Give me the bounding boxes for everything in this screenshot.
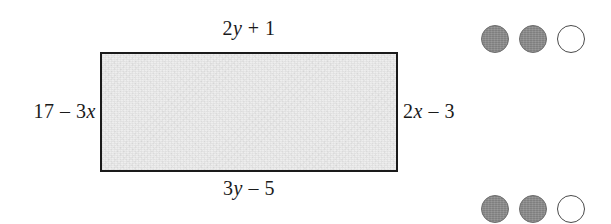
side-label-left: 17 – 3x — [16, 101, 96, 121]
side-label-top-coefficient: 2 — [222, 17, 233, 39]
side-label-left-coefficient: 3 — [76, 100, 87, 122]
side-label-top: 2y + 1 — [100, 18, 398, 38]
side-label-bottom-constant: 5 — [264, 177, 275, 199]
figure-page: 2y + 1 3y – 5 17 – 3x 2x – 3 — [0, 0, 611, 224]
side-label-bottom-variable: y — [234, 177, 243, 199]
bottom-indicator-group — [481, 195, 585, 223]
indicator-dot-empty — [557, 195, 585, 223]
side-label-left-operator: – — [60, 100, 71, 122]
side-label-top-constant: 1 — [265, 17, 276, 39]
rectangle-figure: 2y + 1 3y – 5 17 – 3x 2x – 3 — [0, 0, 470, 224]
side-label-bottom-operator: – — [248, 177, 259, 199]
side-label-right-operator: – — [428, 100, 439, 122]
indicator-dot-filled — [481, 195, 509, 223]
side-label-top-operator: + — [248, 17, 260, 39]
side-label-right-constant: 3 — [444, 100, 455, 122]
rectangle-shape — [100, 52, 398, 172]
side-label-top-variable: y — [233, 17, 242, 39]
indicator-dot-filled — [519, 25, 547, 53]
indicator-dot-empty — [557, 25, 585, 53]
top-indicator-group — [481, 25, 585, 53]
indicator-dot-filled — [519, 195, 547, 223]
side-label-left-variable: x — [87, 100, 96, 122]
side-label-bottom: 3y – 5 — [100, 178, 398, 198]
indicator-dot-filled — [481, 25, 509, 53]
side-label-right-coefficient: 2 — [403, 100, 414, 122]
side-label-bottom-coefficient: 3 — [223, 177, 234, 199]
side-label-right: 2x – 3 — [403, 101, 455, 121]
side-label-right-variable: x — [414, 100, 423, 122]
side-label-left-constant: 17 — [34, 100, 55, 122]
